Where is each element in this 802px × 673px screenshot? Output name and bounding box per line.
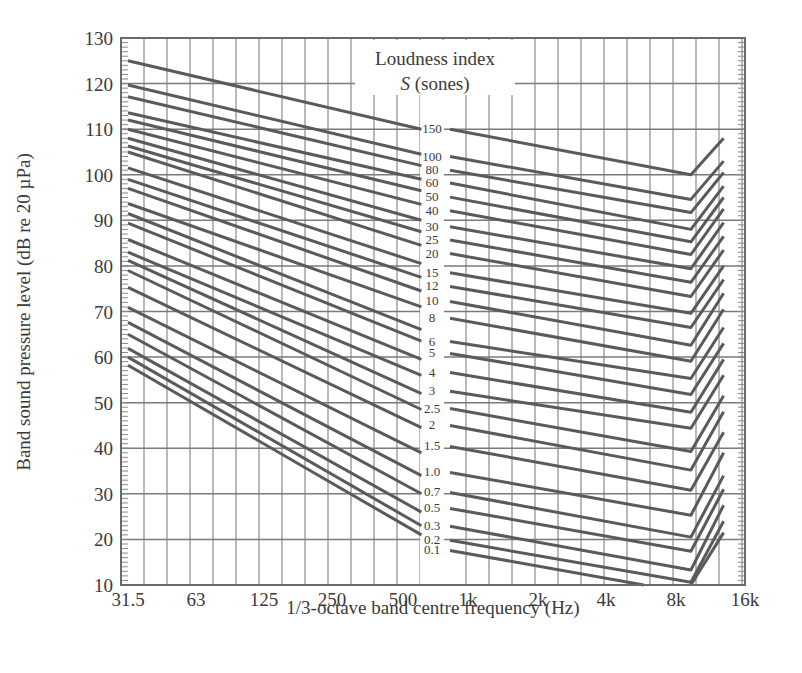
loudness-curve-150-right bbox=[450, 129, 724, 175]
sone-label: 20 bbox=[426, 246, 439, 261]
sone-label: 1.5 bbox=[424, 438, 440, 453]
y-tick-label: 40 bbox=[94, 438, 113, 459]
sone-label: 8 bbox=[429, 310, 436, 325]
sone-label: 0.1 bbox=[424, 542, 440, 557]
loudness-curve-60-left bbox=[128, 113, 421, 180]
loudness-curve-12-right bbox=[450, 280, 724, 328]
sone-label: 150 bbox=[422, 121, 442, 136]
sone-label: 2 bbox=[429, 417, 436, 432]
loudness-curve-15-right bbox=[450, 266, 724, 313]
x-axis-title: 1/3-octave band centre frequency (Hz) bbox=[286, 597, 579, 619]
loudness-curve-2.5-right bbox=[450, 396, 724, 452]
x-tick-label: 31.5 bbox=[111, 589, 144, 610]
y-tick-label: 120 bbox=[85, 74, 114, 95]
y-tick-label: 30 bbox=[94, 484, 113, 505]
loudness-curve-0.7-left bbox=[128, 322, 421, 475]
legend-title-line2: S (sones) bbox=[400, 73, 469, 95]
sone-label: 1.0 bbox=[424, 464, 440, 479]
loudness-curve-1.0-right bbox=[450, 453, 724, 516]
loudness-curve-5-right bbox=[450, 343, 724, 394]
legend-unit: (sones) bbox=[410, 73, 470, 95]
x-tick-label: 8k bbox=[667, 589, 687, 610]
loudness-curve-0.7-right bbox=[450, 476, 724, 537]
x-tick-label: 125 bbox=[250, 589, 279, 610]
sone-label: 10 bbox=[426, 293, 439, 308]
y-tick-label: 110 bbox=[85, 119, 113, 140]
loudness-curve-20-right bbox=[450, 250, 724, 297]
x-tick-label: 63 bbox=[187, 589, 206, 610]
sone-label: 0.5 bbox=[424, 500, 440, 515]
loudness-curve-3-right bbox=[450, 375, 724, 428]
loudness-curve-4-right bbox=[450, 359, 724, 412]
y-tick-label: 100 bbox=[85, 165, 114, 186]
sone-label: 0.7 bbox=[424, 484, 441, 499]
sone-label: 5 bbox=[429, 345, 436, 360]
x-tick-label: 16k bbox=[731, 589, 760, 610]
loudness-curve-6-right bbox=[450, 328, 724, 379]
sone-label: 40 bbox=[426, 203, 439, 218]
loudness-curve-8-right bbox=[450, 309, 724, 361]
legend-symbol: S bbox=[400, 73, 410, 94]
sone-label: 4 bbox=[429, 365, 436, 380]
loudness-curve-1.5-right bbox=[450, 432, 724, 490]
legend-title-line1: Loudness index bbox=[375, 48, 495, 69]
y-tick-label: 60 bbox=[94, 347, 113, 368]
sone-label: 2.5 bbox=[424, 401, 440, 416]
y-tick-label: 80 bbox=[94, 256, 113, 277]
y-tick-label: 130 bbox=[85, 28, 114, 49]
loudness-curve-0.1-left bbox=[128, 365, 421, 535]
y-tick-label: 90 bbox=[94, 210, 113, 231]
sone-label: 0.3 bbox=[424, 518, 440, 533]
y-tick-labels: 102030405060708090100110120130 bbox=[85, 28, 114, 596]
loudness-index-chart: 15010080605040302520151210865432.521.51.… bbox=[0, 0, 802, 673]
y-axis-title: Band sound pressure level (dB re 20 µPa) bbox=[13, 153, 35, 471]
loudness-curve-0.2-left bbox=[128, 357, 421, 526]
y-tick-label: 10 bbox=[94, 575, 113, 596]
sone-label: 60 bbox=[426, 175, 439, 190]
loudness-curve-15-left bbox=[128, 168, 421, 264]
sone-label: 12 bbox=[426, 278, 439, 293]
sone-label: 3 bbox=[429, 383, 436, 398]
loudness-curve-2-right bbox=[450, 412, 724, 470]
x-tick-label: 4k bbox=[597, 589, 617, 610]
loudness-curve-25-right bbox=[450, 236, 724, 282]
y-tick-label: 70 bbox=[94, 302, 113, 323]
y-tick-label: 50 bbox=[94, 393, 113, 414]
y-tick-label: 20 bbox=[94, 529, 113, 550]
loudness-curve-10-right bbox=[450, 293, 724, 345]
